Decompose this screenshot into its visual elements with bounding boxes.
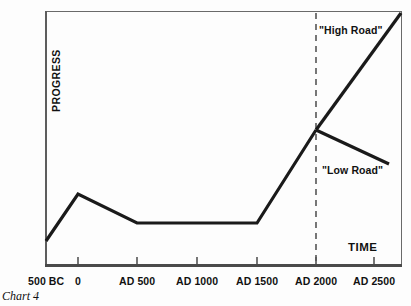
series-low-road xyxy=(316,130,389,164)
low-road-annotation: "Low Road" xyxy=(322,164,383,176)
x-tick-label: AD 2000 xyxy=(295,275,337,287)
figure-caption: Chart 4 xyxy=(2,289,39,304)
x-tick-label: AD 2500 xyxy=(353,275,395,287)
x-axis-tick-marks xyxy=(78,257,374,264)
x-tick-label: 500 BC xyxy=(28,275,64,287)
x-tick-label: AD 1500 xyxy=(236,275,278,287)
y-axis-title: PROGRESS xyxy=(50,98,62,112)
x-tick-label: AD 1000 xyxy=(176,275,218,287)
chart-figure: PROGRESS TIME "High Road" "Low Road" 500… xyxy=(0,0,411,306)
x-tick-label: 0 xyxy=(75,275,81,287)
series-historical-progress xyxy=(46,130,316,241)
chart-plot-area xyxy=(0,0,411,306)
high-road-annotation: "High Road" xyxy=(319,24,383,36)
x-axis-title: TIME xyxy=(348,241,377,253)
x-tick-label: AD 500 xyxy=(119,275,155,287)
